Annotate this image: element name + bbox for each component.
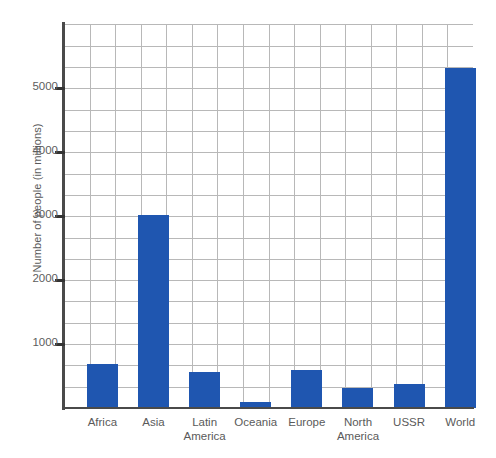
x-axis-label: World bbox=[420, 416, 496, 430]
bar-chart: Number of people (in millions) 100020003… bbox=[0, 0, 496, 458]
x-axis-label-line2: America bbox=[318, 430, 398, 444]
y-tick-label: 1000 bbox=[6, 336, 58, 348]
y-tick-label: 4000 bbox=[6, 144, 58, 156]
y-axis-ticks: 10002000300040005000 bbox=[0, 0, 496, 458]
y-tick-label: 5000 bbox=[6, 80, 58, 92]
x-axis-label-line1: World bbox=[420, 416, 496, 430]
y-tick-label: 3000 bbox=[6, 208, 58, 220]
x-axis-labels: AfricaAsiaLatinAmericaOceaniaEuropeNorth… bbox=[0, 412, 496, 456]
y-tick-label: 2000 bbox=[6, 272, 58, 284]
x-axis-label-line2: America bbox=[165, 430, 245, 444]
